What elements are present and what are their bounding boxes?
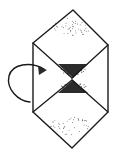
- figure-container: Folding step diagram: [0, 0, 114, 160]
- folding-diagram: [0, 0, 114, 160]
